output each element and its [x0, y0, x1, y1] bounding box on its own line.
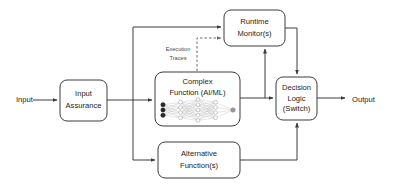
neural-net-hidden-node	[196, 103, 200, 107]
node-decision-logic-label-line-3: (Switch)	[283, 104, 311, 113]
node-alternative-function-label-line-2: Function(s)	[180, 161, 218, 170]
neural-net-hidden-node	[196, 108, 200, 112]
architecture-diagram: Input Assurance Complex Function (AI/ML)…	[0, 0, 394, 188]
node-runtime-monitor[interactable]: Runtime Monitor(s)	[224, 10, 285, 46]
neural-net-hidden-node	[196, 119, 200, 123]
connector-execution-traces	[197, 38, 221, 71]
node-runtime-monitor-label-line-2: Monitor(s)	[237, 29, 272, 38]
neural-net-hidden-node	[214, 116, 218, 120]
neural-net-hidden-node	[179, 100, 183, 104]
neural-net-hidden-node	[196, 113, 200, 117]
node-alternative-function[interactable]: Alternative Function(s)	[158, 142, 240, 178]
node-complex-function-label-line-2: Function (AI/ML)	[169, 88, 226, 97]
neural-net-hidden-node	[179, 116, 183, 120]
neural-net-hidden-node	[179, 106, 183, 110]
node-layer: Input Assurance Complex Function (AI/ML)…	[60, 10, 317, 178]
node-decision-logic-label-line-1: Decision	[282, 83, 311, 92]
neural-net-hidden-node	[196, 98, 200, 102]
diagram-canvas: Input Assurance Complex Function (AI/ML)…	[0, 0, 394, 188]
node-runtime-monitor-shape	[224, 10, 285, 46]
neural-net-hidden-node	[214, 106, 218, 110]
node-complex-function[interactable]: Complex Function (AI/ML)	[155, 72, 240, 126]
node-decision-logic-label-line-2: Logic	[287, 94, 305, 103]
node-alternative-function-label-line-1: Alternative	[181, 149, 217, 158]
neural-net-hidden-node	[214, 111, 218, 115]
node-decision-logic[interactable]: Decision Logic (Switch)	[276, 77, 317, 120]
connector-runtime-monitor-to-decision-logic	[285, 28, 297, 74]
neural-net-output-node	[231, 108, 236, 113]
input-label: Input	[16, 95, 34, 104]
node-input-assurance-label-line-1: Input	[75, 89, 93, 98]
node-alternative-function-shape	[158, 142, 240, 178]
node-complex-function-label-line-1: Complex	[183, 77, 213, 86]
node-runtime-monitor-label-line-1: Runtime	[240, 17, 268, 26]
output-label: Output	[352, 95, 376, 104]
connector-alternative-function-to-decision-logic	[240, 123, 297, 160]
neural-net-hidden-node	[179, 111, 183, 115]
execution-traces-label-line-1: Execution	[166, 46, 191, 52]
neural-net-input-node	[161, 113, 166, 118]
neural-net-input-node	[161, 103, 166, 108]
neural-net-input-node	[161, 108, 166, 113]
node-input-assurance-label-line-2: Assurance	[66, 101, 102, 110]
neural-net-hidden-node	[214, 100, 218, 104]
execution-traces-label-line-2: Traces	[170, 55, 187, 61]
node-input-assurance[interactable]: Input Assurance	[60, 80, 107, 121]
